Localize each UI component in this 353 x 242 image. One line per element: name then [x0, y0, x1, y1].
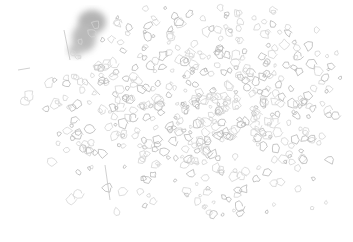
sketch-texture-image [0, 0, 353, 242]
